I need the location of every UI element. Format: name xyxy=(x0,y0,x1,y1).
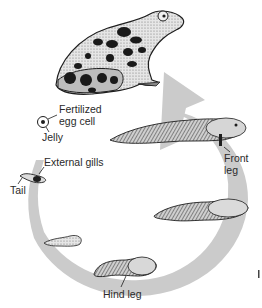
label-tail: Tail xyxy=(10,184,26,196)
egg-illustration xyxy=(38,115,58,132)
frog-life-cycle-diagram: Fertilized egg cell Jelly External gills… xyxy=(0,0,262,308)
label-hind-leg: Hind leg xyxy=(103,288,142,300)
edge-fragment xyxy=(258,270,260,278)
egg-cell-pointer xyxy=(48,115,57,119)
label-leg: leg xyxy=(224,164,238,176)
early-larva-illustration xyxy=(18,167,46,184)
diagram-canvas xyxy=(0,0,262,308)
label-egg-cell: egg cell xyxy=(59,115,95,127)
label-jelly: Jelly xyxy=(42,131,63,143)
front-leg xyxy=(219,134,222,146)
tadpole-large-illustration xyxy=(154,199,248,221)
label-front: Front xyxy=(224,152,249,164)
label-fertilized: Fertilized xyxy=(59,103,102,115)
small-tadpole-illustration xyxy=(44,235,81,246)
label-external-gills: External gills xyxy=(44,156,104,168)
